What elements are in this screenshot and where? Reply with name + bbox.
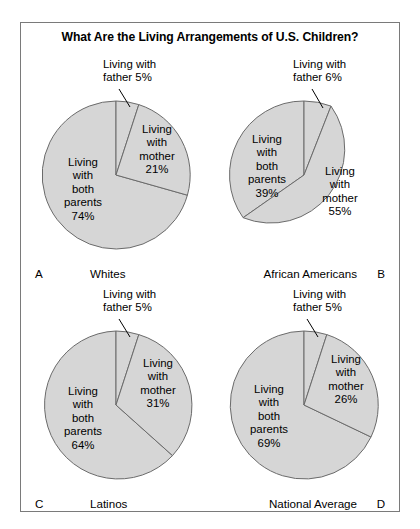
panel-group-whites: Whites (90, 267, 125, 280)
callout-line-1: Living with (293, 58, 346, 71)
panel-group-national-average: National Average (269, 497, 357, 510)
callout-line-1: Living with (293, 288, 346, 301)
pie-panel-latinos: Living with father 5% Living with mother… (21, 285, 211, 515)
callout-father-national-average: Living with father 5% (293, 288, 346, 314)
label-mother-african-americans: Living with mother 55% (307, 165, 373, 219)
callout-father-whites: Living with father 5% (103, 58, 156, 84)
panel-group-african-americans: African Americans (264, 267, 357, 280)
pie-panel-african-americans: Living with father 6% Living with both p… (209, 55, 399, 285)
panel-letter-a: A (35, 267, 43, 280)
callout-line-2: father 5% (103, 71, 156, 84)
panel-letter-b: B (377, 267, 385, 280)
callout-line-1: Living with (103, 288, 156, 301)
label-mother-latinos: Living with mother 31% (125, 357, 191, 411)
label-both-parents-national-average: Living with both parents 69% (235, 383, 303, 450)
figure-frame: What Are the Living Arrangements of U.S.… (20, 22, 400, 512)
callout-line-1: Living with (103, 58, 156, 71)
label-mother-whites: Living with mother 21% (125, 123, 189, 177)
panel-footer-african-americans: African Americans B (209, 267, 399, 283)
pie-panel-whites: Living with father 5% Living with mother… (21, 55, 211, 285)
label-both-parents-african-americans: Living with both parents 39% (231, 133, 303, 200)
panel-letter-c: C (35, 497, 43, 510)
callout-father-latinos: Living with father 5% (103, 288, 156, 314)
label-mother-national-average: Living with mother 26% (313, 353, 379, 407)
panel-letter-d: D (377, 497, 385, 510)
page-title: What Are the Living Arrangements of U.S.… (21, 30, 399, 44)
panel-footer-national-average: National Average D (209, 497, 399, 513)
callout-father-african-americans: Living with father 6% (293, 58, 346, 84)
callout-line-2: father 5% (103, 301, 156, 314)
callout-line-2: father 5% (293, 301, 346, 314)
panel-group-latinos: Latinos (90, 497, 127, 510)
panel-footer-whites: A Whites (21, 267, 211, 283)
label-both-parents-latinos: Living with both parents 64% (49, 385, 117, 452)
panel-footer-latinos: C Latinos (21, 497, 211, 513)
callout-line-2: father 6% (293, 71, 346, 84)
pie-panel-national-average: Living with father 5% Living with mother… (209, 285, 399, 515)
label-both-parents-whites: Living with both parents 74% (49, 156, 117, 223)
